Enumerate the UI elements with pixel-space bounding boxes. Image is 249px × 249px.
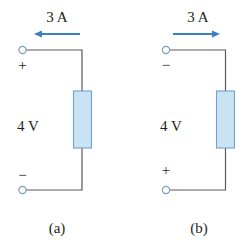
voltage-label-a: 4 V <box>17 118 39 134</box>
terminal-top-b <box>162 46 169 53</box>
polarity-top-a: + <box>18 57 26 73</box>
resistor-a <box>74 91 92 148</box>
terminal-bottom-a <box>19 186 26 193</box>
polarity-bottom-b: + <box>162 162 170 178</box>
voltage-label-b: 4 V <box>160 118 182 134</box>
caption-a: (a) <box>49 220 66 237</box>
circuit-b: 3 A − + 4 V (b) <box>160 9 235 237</box>
circuit-figure: 3 A + − 4 V (a) 3 A − + 4 V (b) <box>0 0 249 249</box>
caption-b: (b) <box>190 220 208 237</box>
terminal-top-a <box>19 46 26 53</box>
current-label-a: 3 A <box>46 9 67 25</box>
circuit-a: 3 A + − 4 V (a) <box>17 9 92 237</box>
polarity-top-b: − <box>162 57 170 73</box>
resistor-b <box>217 91 235 148</box>
current-label-b: 3 A <box>187 9 208 25</box>
terminal-bottom-b <box>162 186 169 193</box>
polarity-bottom-a: − <box>18 167 26 183</box>
